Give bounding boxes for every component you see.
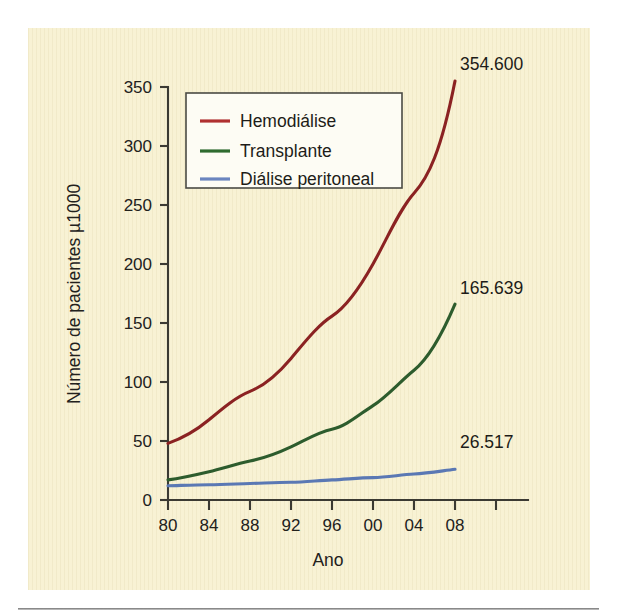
annotation-hemodialise-value: 354.600 [460, 54, 524, 74]
legend-label-transplante: Transplante [240, 141, 332, 161]
series-line-transplante [168, 304, 455, 480]
y-tick-label-250: 250 [124, 196, 152, 215]
y-tick-label-0: 0 [143, 491, 152, 510]
figure-panel: 350 300 250 200 150 100 50 0 80 84 88 9 [28, 28, 590, 590]
y-axis-title: Número de pacientes µ1000 [64, 184, 84, 404]
x-tick-label-08: 08 [446, 516, 465, 535]
y-tick-label-50: 50 [133, 432, 152, 451]
annotation-transplante-value: 165.639 [460, 278, 523, 298]
y-axis-tick-labels: 350 300 250 200 150 100 50 0 [124, 78, 152, 510]
x-axis-ticks [168, 500, 496, 510]
chart-legend: Hemodiálise Transplante Diálise peritone… [186, 93, 402, 189]
legend-label-dialise-peritoneal: Diálise peritoneal [240, 169, 374, 189]
legend-label-hemodialise: Hemodiálise [240, 111, 336, 131]
y-tick-label-300: 300 [124, 137, 152, 156]
y-tick-label-150: 150 [124, 314, 152, 333]
annotation-dialise-peritoneal-value: 26.517 [460, 432, 514, 452]
bottom-separator-rule [18, 608, 599, 610]
y-axis-ticks [160, 87, 168, 500]
y-tick-label-100: 100 [124, 373, 152, 392]
x-axis-tick-labels: 80 84 88 92 96 00 04 08 [159, 516, 465, 535]
x-tick-label-92: 92 [282, 516, 301, 535]
x-tick-label-84: 84 [200, 516, 219, 535]
line-chart: 350 300 250 200 150 100 50 0 80 84 88 9 [28, 28, 590, 590]
x-tick-label-96: 96 [323, 516, 342, 535]
x-tick-label-00: 00 [364, 516, 383, 535]
x-tick-label-88: 88 [241, 516, 260, 535]
y-tick-label-350: 350 [124, 78, 152, 97]
x-axis-title: Ano [312, 550, 343, 570]
x-tick-label-04: 04 [405, 516, 424, 535]
x-tick-label-80: 80 [159, 516, 178, 535]
y-tick-label-200: 200 [124, 255, 152, 274]
